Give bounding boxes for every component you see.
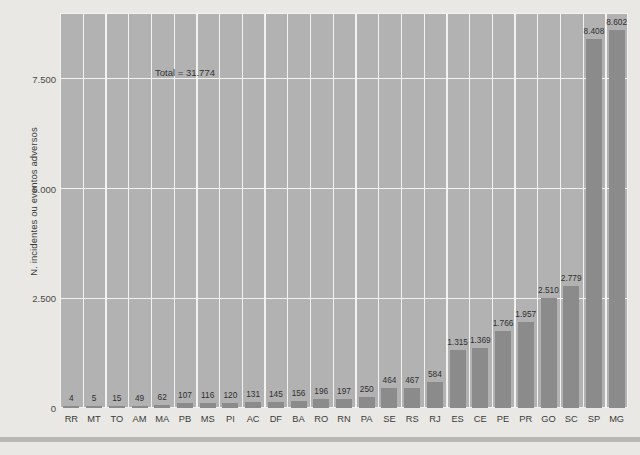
bar[interactable] — [268, 402, 284, 408]
bottom-divider — [0, 437, 640, 442]
y-axis-title: N. incidentes ou eventos adversos — [28, 92, 39, 312]
x-axis-tick-label: RN — [333, 414, 356, 424]
bar-slot: 8.408 — [583, 13, 606, 408]
x-axis-tick-label: RS — [401, 414, 424, 424]
bar-slot: 107 — [174, 13, 197, 408]
bar-slot: 2.779 — [560, 13, 583, 408]
bar[interactable] — [427, 382, 443, 408]
x-axis-tick-label: SP — [583, 414, 606, 424]
bar-value-label: 2.779 — [561, 273, 582, 283]
bar-slot: 131 — [242, 13, 265, 408]
bar-value-label: 2.510 — [538, 285, 559, 295]
x-axis-tick-label: SC — [560, 414, 583, 424]
bar-slot: 2.510 — [537, 13, 560, 408]
bar-chart-figure: N. incidentes ou eventos adversos Total … — [0, 0, 640, 455]
x-axis-tick-label: ES — [446, 414, 469, 424]
bar[interactable] — [245, 402, 261, 408]
y-axis-tick-label: 0 — [10, 403, 56, 414]
bar-slot: 1.766 — [492, 13, 515, 408]
bar-slot: 15 — [105, 13, 128, 408]
bar[interactable] — [86, 406, 102, 408]
x-axis-tick-label: MA — [151, 414, 174, 424]
bar[interactable] — [63, 406, 79, 408]
bar[interactable] — [586, 39, 602, 408]
bar[interactable] — [313, 399, 329, 408]
bar[interactable] — [563, 286, 579, 408]
x-axis-tick-labels: RRMTTOAMMAPBMSPIACDFBARORNPASERSRJESCEPE… — [60, 414, 628, 434]
bar-value-label: 145 — [269, 389, 283, 399]
bar-series: 4515496210711612013114515619619725046446… — [60, 13, 628, 408]
x-axis-tick-label: TO — [105, 414, 128, 424]
x-axis-tick-label: DF — [264, 414, 287, 424]
bar[interactable] — [495, 331, 511, 409]
bar-slot: 584 — [424, 13, 447, 408]
bar[interactable] — [609, 30, 625, 408]
bar-slot: 8.602 — [605, 13, 628, 408]
bar[interactable] — [200, 403, 216, 408]
x-axis-tick-label: PB — [174, 414, 197, 424]
y-axis-tick-label: 5.000 — [10, 183, 56, 194]
bar-value-label: 120 — [223, 390, 237, 400]
bar-value-label: 250 — [360, 384, 374, 394]
bar[interactable] — [404, 388, 420, 408]
bar-value-label: 49 — [135, 393, 144, 403]
bar[interactable] — [518, 322, 534, 408]
bar-value-label: 196 — [314, 386, 328, 396]
bar[interactable] — [541, 298, 557, 408]
bar-slot: 4 — [60, 13, 83, 408]
bar-value-label: 116 — [201, 390, 214, 400]
bar-slot: 1.957 — [514, 13, 537, 408]
x-axis-tick-label: MT — [83, 414, 106, 424]
x-axis-tick-label: MS — [196, 414, 219, 424]
bar-value-label: 156 — [292, 388, 306, 398]
x-axis-tick-label: SE — [378, 414, 401, 424]
bar-slot: 196 — [310, 13, 333, 408]
x-axis-tick-label: PE — [492, 414, 515, 424]
bar[interactable] — [450, 350, 466, 408]
bar[interactable] — [381, 388, 397, 408]
bar[interactable] — [132, 406, 148, 408]
bar-value-label: 1.369 — [470, 335, 491, 345]
bar-value-label: 62 — [158, 392, 167, 402]
bar-slot: 120 — [219, 13, 242, 408]
x-axis-tick-label: RO — [310, 414, 333, 424]
bar-slot: 1.315 — [446, 13, 469, 408]
bar[interactable] — [177, 403, 193, 408]
bar-value-label: 464 — [383, 375, 397, 385]
bar-slot: 464 — [378, 13, 401, 408]
x-axis-tick-label: BA — [287, 414, 310, 424]
bar-value-label: 584 — [428, 369, 442, 379]
bar[interactable] — [109, 406, 125, 408]
x-axis-tick-label: CE — [469, 414, 492, 424]
bar[interactable] — [154, 405, 170, 408]
bar-slot: 156 — [287, 13, 310, 408]
bar[interactable] — [359, 397, 375, 408]
bar-slot: 5 — [83, 13, 106, 408]
bar-value-label: 15 — [112, 393, 121, 403]
bar[interactable] — [291, 401, 307, 408]
bar-slot: 1.369 — [469, 13, 492, 408]
bar-slot: 116 — [196, 13, 219, 408]
y-axis-tick-label: 2.500 — [10, 293, 56, 304]
bar[interactable] — [222, 403, 238, 408]
x-axis-tick-label: PI — [219, 414, 242, 424]
bar-slot: 197 — [333, 13, 356, 408]
bar-value-label: 1.957 — [515, 309, 536, 319]
bar-slot: 49 — [128, 13, 151, 408]
bar-slot: 62 — [151, 13, 174, 408]
x-axis-tick-label: PA — [355, 414, 378, 424]
bar-value-label: 8.408 — [584, 26, 605, 36]
bar-value-label: 197 — [337, 386, 351, 396]
bar[interactable] — [336, 399, 352, 408]
x-axis-tick-label: GO — [537, 414, 560, 424]
x-axis-tick-label: MG — [605, 414, 628, 424]
bar-value-label: 5 — [92, 393, 97, 403]
bar-value-label: 107 — [178, 390, 192, 400]
bar-value-label: 8.602 — [606, 17, 627, 27]
bar-value-label: 4 — [69, 393, 74, 403]
y-axis-tick-label: 7.500 — [10, 73, 56, 84]
bar[interactable] — [472, 348, 488, 408]
bar-slot: 250 — [355, 13, 378, 408]
bar-slot: 467 — [401, 13, 424, 408]
x-axis-tick-label: RR — [60, 414, 83, 424]
